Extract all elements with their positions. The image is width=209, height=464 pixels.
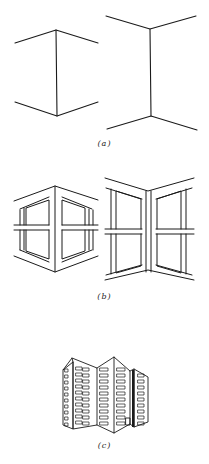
convex-corner	[15, 30, 98, 116]
corners-with-windows-drawing	[0, 165, 209, 290]
apartment-building-drawing	[0, 320, 209, 440]
figure-c	[0, 320, 209, 440]
corner-edges-drawing	[0, 0, 209, 140]
label-c: (c)	[0, 441, 209, 450]
label-a: (a)	[0, 139, 209, 148]
label-b: (b)	[0, 292, 209, 301]
concave-corner	[106, 16, 197, 130]
figure-b	[0, 165, 209, 290]
concave-corner-windows	[105, 178, 194, 280]
convex-corner-windows	[14, 186, 98, 272]
figure-a	[0, 0, 209, 140]
